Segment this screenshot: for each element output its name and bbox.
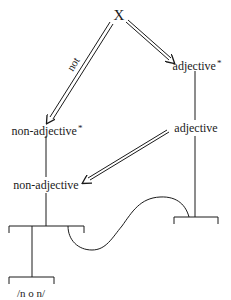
node-non-adjective-star: non-adjective* bbox=[12, 121, 83, 138]
node-non-adjective: non-adjective bbox=[13, 178, 78, 192]
node-root-x-label: X bbox=[114, 7, 125, 23]
phonological-bracket bbox=[9, 226, 54, 284]
edge-x-to-adjective-star bbox=[126, 20, 174, 63]
node-adjective-star-label: adjective bbox=[173, 59, 216, 73]
node-root-x: X bbox=[114, 7, 125, 23]
edge-x-to-non-adjective-star bbox=[47, 22, 113, 123]
node-adjective-label: adjective bbox=[174, 121, 217, 135]
node-non-adjective-label: non-adjective bbox=[13, 178, 78, 192]
phonological-form: /n o n/ bbox=[17, 287, 45, 299]
node-non-adjective-star-label: non-adjective bbox=[12, 124, 77, 138]
node-adjective: adjective bbox=[174, 121, 217, 135]
asterisk-marker: * bbox=[217, 58, 222, 68]
diagram-lines bbox=[0, 0, 231, 300]
asterisk-marker: * bbox=[78, 123, 83, 133]
adjective-bracket bbox=[174, 136, 218, 224]
bracket-connector-curve bbox=[68, 197, 189, 250]
node-adjective-star: adjective* bbox=[173, 56, 222, 73]
edge-adjective-to-non-adjective bbox=[83, 130, 169, 183]
diagram-canvas: X adjective* adjective non-adjective* no… bbox=[0, 0, 231, 300]
non-adjective-bracket bbox=[9, 193, 84, 233]
